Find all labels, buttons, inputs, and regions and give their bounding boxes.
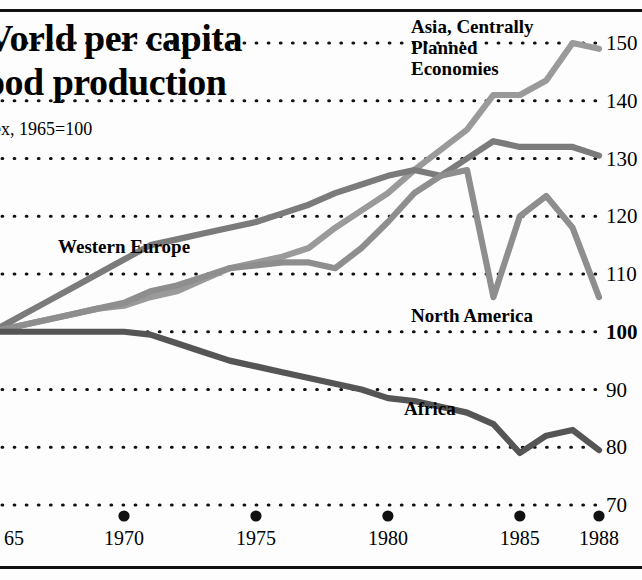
x-tick-dot (118, 510, 129, 521)
x-tick-dot (514, 510, 525, 521)
x-axis-tick-label: 1970 (104, 528, 144, 548)
x-axis-tick-label: 1988 (579, 528, 619, 548)
y-axis-tick-label: 70 (606, 495, 627, 516)
series-line (0, 332, 599, 453)
series-line (0, 43, 599, 332)
x-tick-dot (593, 510, 604, 521)
y-axis-tick-label: 90 (606, 380, 627, 401)
y-axis-tick-label: 80 (606, 437, 627, 458)
x-axis-tick-label: 1985 (500, 528, 540, 548)
chart-figure: Vorld per capitaood production dex, 1965… (0, 0, 642, 580)
y-axis-tick-label: 120 (606, 206, 638, 227)
series-label-western-europe: Western Europe (58, 236, 190, 257)
series-label-north-america: North America (411, 305, 533, 326)
x-axis-tick-label: 1975 (236, 528, 276, 548)
y-axis-tick-label: 110 (606, 264, 637, 285)
y-axis-tick-label: 130 (606, 149, 638, 170)
x-axis-tick-label: 65 (4, 528, 24, 548)
y-axis-tick-label: 100 (606, 322, 638, 343)
series-label-africa: Africa (404, 398, 456, 419)
x-tick-dot (382, 510, 393, 521)
chart-canvas (0, 0, 642, 580)
x-axis-tick-label: 1980 (368, 528, 408, 548)
plot-area (0, 0, 642, 580)
y-axis-tick-label: 140 (606, 91, 638, 112)
y-axis-tick-label: 150 (606, 33, 638, 54)
series-label-asia: Asia, CentrallyPlannedEconomies (411, 16, 591, 79)
x-tick-dot (250, 510, 261, 521)
